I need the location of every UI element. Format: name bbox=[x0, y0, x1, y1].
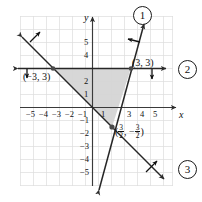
coordinate-plane-svg bbox=[0, 0, 202, 202]
y-tick-5: 5 bbox=[84, 38, 88, 47]
y-tick-1: 1 bbox=[84, 90, 88, 99]
x-tick--3: −3 bbox=[52, 110, 61, 119]
y-axis-label: y bbox=[84, 13, 88, 23]
vertex-label-right: (3, 3) bbox=[132, 58, 154, 68]
graph-figure: 1 2 3 y x (−3, 3) (3, 3) ( 3 2 , − 3 2 )… bbox=[0, 0, 202, 202]
callout-line-3-label: 3 bbox=[185, 164, 191, 175]
y-tick-2: 2 bbox=[84, 77, 88, 86]
y-tick--3: −3 bbox=[80, 142, 89, 151]
x-tick-4: 4 bbox=[140, 110, 144, 119]
shade-arrow-line-3-upper bbox=[30, 32, 40, 42]
x-tick-5: 5 bbox=[153, 110, 157, 119]
callout-line-1-label: 1 bbox=[140, 10, 146, 21]
x-tick--2: −2 bbox=[65, 110, 74, 119]
vertex-label-bottom: ( 3 2 , − 3 2 ) bbox=[115, 124, 144, 140]
callout-line-2: 2 bbox=[178, 60, 197, 79]
fraction-three-halves-x: 3 2 bbox=[118, 124, 124, 140]
callout-line-3: 3 bbox=[178, 160, 197, 179]
y-tick-4: 4 bbox=[84, 51, 88, 60]
shade-arrow-line-1 bbox=[128, 39, 140, 42]
y-tick--4: −4 bbox=[80, 155, 89, 164]
x-axis-label: x bbox=[179, 110, 183, 120]
x-tick--4: −4 bbox=[39, 110, 48, 119]
y-tick--2: −2 bbox=[80, 129, 89, 138]
callout-line-1: 1 bbox=[133, 6, 152, 25]
fraction-three-halves-y: 3 2 bbox=[135, 124, 141, 140]
vertex-label-left: (−3, 3) bbox=[23, 72, 50, 82]
x-tick-1: 1 bbox=[101, 110, 105, 119]
x-tick-3: 3 bbox=[127, 110, 131, 119]
callout-line-2-label: 2 bbox=[185, 64, 191, 75]
y-tick--1: −1 bbox=[80, 116, 89, 125]
paren-close: ) bbox=[140, 127, 143, 137]
comma-separator: , − bbox=[124, 127, 135, 137]
y-tick--5: −5 bbox=[80, 168, 89, 177]
x-tick--5: −5 bbox=[26, 110, 35, 119]
